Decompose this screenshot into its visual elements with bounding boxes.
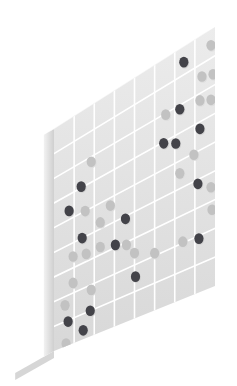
- base-foot-group: [5, 351, 54, 380]
- grid-dot-dark[interactable]: [121, 214, 130, 225]
- grid-dot-dark[interactable]: [159, 138, 168, 149]
- grid-dot-light[interactable]: [106, 200, 115, 211]
- isometric-wall-illustration: [0, 0, 237, 386]
- grid-dot-light[interactable]: [175, 168, 184, 179]
- grid-dot-light[interactable]: [207, 204, 216, 215]
- grid-dot-dark[interactable]: [63, 316, 72, 327]
- grid-dot-light[interactable]: [206, 94, 215, 105]
- grid-dot-dark[interactable]: [171, 138, 180, 149]
- base-foot-front: [15, 351, 54, 380]
- grid-dot-light[interactable]: [69, 278, 78, 289]
- grid-dot-light[interactable]: [189, 149, 198, 160]
- grid-dot-dark[interactable]: [131, 271, 140, 282]
- grid-dot-dark[interactable]: [86, 305, 95, 316]
- grid-dot-light[interactable]: [130, 248, 139, 259]
- grid-dot-dark[interactable]: [175, 104, 184, 115]
- grid-dot-light[interactable]: [87, 156, 96, 167]
- grid-dot-light[interactable]: [96, 217, 105, 228]
- grid-dot-dark[interactable]: [179, 57, 188, 68]
- grid-dot-dark[interactable]: [78, 233, 87, 244]
- grid-dot-light[interactable]: [81, 206, 90, 217]
- base-foot-top: [5, 351, 54, 379]
- grid-dot-dark[interactable]: [79, 325, 88, 336]
- grid-dot-dark[interactable]: [77, 181, 86, 192]
- grid-dot-light[interactable]: [60, 300, 69, 311]
- grid-dot-dark[interactable]: [194, 233, 203, 244]
- grid-dot-light[interactable]: [208, 69, 217, 80]
- grid-dot-light[interactable]: [82, 249, 91, 260]
- grid-dot-light[interactable]: [161, 109, 170, 120]
- illustration-canvas: [0, 0, 237, 386]
- grid-dot-light[interactable]: [150, 248, 159, 259]
- grid-dot-light[interactable]: [69, 251, 78, 262]
- grid-dot-light[interactable]: [96, 242, 105, 253]
- grid-dot-light[interactable]: [195, 95, 204, 106]
- grid-dot-dark[interactable]: [64, 206, 73, 217]
- grid-dot-light[interactable]: [122, 240, 131, 251]
- grid-dot-light[interactable]: [61, 338, 70, 349]
- panel-left-edge: [44, 129, 54, 357]
- grid-dot-light[interactable]: [206, 182, 215, 193]
- grid-dot-light[interactable]: [197, 71, 206, 82]
- grid-dot-light[interactable]: [178, 236, 187, 247]
- grid-dot-light[interactable]: [206, 40, 215, 51]
- grid-dot-dark[interactable]: [195, 124, 204, 135]
- grid-dot-light[interactable]: [87, 285, 96, 296]
- grid-dot-dark[interactable]: [111, 240, 120, 251]
- grid-dot-dark[interactable]: [193, 178, 202, 189]
